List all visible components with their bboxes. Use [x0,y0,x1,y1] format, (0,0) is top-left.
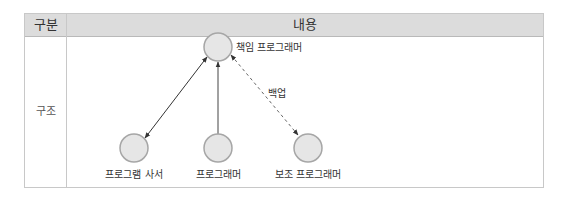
team-structure-diagram: 책임 프로그래머 프로그램 사서 프로그래머 보조 프로그래머 백업 [0,0,570,201]
node-program-librarian [120,134,148,162]
label-chief-programmer: 책임 프로그래머 [236,41,302,53]
node-programmer [204,134,232,162]
label-programmer: 프로그래머 [196,169,241,180]
node-chief-programmer [204,33,232,61]
edge-chief-librarian [145,57,207,138]
label-backup-programmer: 보조 프로그래머 [275,169,341,180]
label-program-librarian: 프로그램 사서 [105,169,162,180]
node-backup-programmer [294,134,322,162]
edge-chief-backup [231,55,298,135]
label-backup-edge: 백업 [268,87,286,99]
